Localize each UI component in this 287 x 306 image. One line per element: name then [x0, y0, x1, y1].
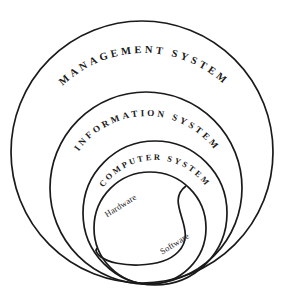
ring-management-system — [11, 21, 273, 283]
s-divider-curve — [96, 186, 186, 265]
inner-circle-computer-parts — [94, 172, 206, 284]
ring-label-management-system: MANAGEMENT SYSTEM — [57, 44, 231, 87]
diagram-canvas: MANAGEMENT SYSTEM INFORMATION SYSTEM COM… — [0, 0, 287, 306]
ring-label-information-system: INFORMATION SYSTEM — [72, 108, 222, 153]
part-label-hardware: Hardware — [103, 192, 138, 219]
part-label-software: Software — [158, 231, 191, 257]
nested-systems-diagram: MANAGEMENT SYSTEM INFORMATION SYSTEM COM… — [0, 0, 287, 306]
